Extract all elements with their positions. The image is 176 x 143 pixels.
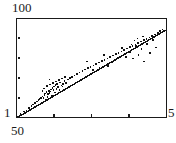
- data-point: [123, 49, 125, 51]
- data-point: [155, 47, 157, 49]
- data-point: [53, 86, 55, 88]
- data-point: [107, 65, 109, 67]
- data-point: [40, 97, 42, 99]
- x-axis-min-label: 50: [11, 124, 24, 137]
- data-point: [46, 85, 48, 87]
- data-point: [134, 40, 136, 42]
- data-point: [146, 38, 148, 40]
- data-point: [50, 91, 52, 93]
- data-point: [44, 93, 46, 95]
- regression-line-segment: [19, 31, 165, 117]
- data-point: [31, 105, 33, 107]
- data-point: [131, 44, 133, 46]
- data-point: [149, 37, 151, 39]
- data-point: [28, 107, 30, 109]
- data-point: [42, 90, 44, 92]
- data-point: [121, 47, 123, 49]
- data-point: [43, 88, 45, 90]
- data-point: [56, 88, 58, 90]
- data-point: [59, 89, 61, 91]
- data-point: [47, 93, 49, 95]
- data-point: [126, 48, 128, 50]
- x-axis-max-label: 5: [168, 106, 175, 119]
- data-point: [57, 86, 59, 88]
- data-point: [43, 97, 45, 99]
- data-point: [95, 63, 97, 65]
- data-point: [42, 96, 44, 98]
- data-point: [71, 76, 73, 78]
- data-point: [34, 102, 36, 104]
- data-point: [132, 58, 134, 60]
- data-point: [82, 70, 84, 72]
- data-point: [47, 96, 49, 98]
- data-point: [112, 55, 114, 57]
- data-point: [107, 58, 109, 60]
- data-point: [104, 59, 106, 61]
- data-point: [52, 87, 54, 89]
- data-point: [141, 48, 143, 50]
- data-point: [62, 86, 64, 88]
- data-point: [76, 73, 78, 75]
- data-point: [49, 79, 51, 81]
- data-point: [162, 29, 164, 31]
- x-axis-tick: [53, 114, 55, 117]
- data-point: [125, 56, 127, 58]
- data-point: [92, 69, 94, 71]
- data-point: [44, 94, 46, 96]
- data-point: [143, 39, 145, 41]
- data-point: [86, 61, 88, 63]
- data-point: [67, 79, 69, 81]
- data-point: [56, 83, 58, 85]
- data-point: [62, 83, 64, 85]
- data-point: [149, 52, 151, 54]
- y-axis-min-label: 1: [4, 106, 11, 119]
- data-point: [58, 79, 60, 81]
- plot-frame: [17, 19, 167, 118]
- y-axis-tick: [18, 97, 21, 99]
- data-point: [118, 52, 120, 54]
- data-point: [152, 39, 154, 41]
- data-point: [74, 75, 76, 77]
- data-point: [46, 91, 48, 93]
- data-point: [59, 82, 61, 84]
- data-point: [138, 54, 140, 56]
- data-point: [39, 98, 41, 100]
- data-point: [49, 92, 51, 94]
- data-point: [48, 90, 50, 92]
- data-point: [146, 43, 148, 45]
- data-point: [159, 30, 161, 32]
- y-axis-tick: [18, 77, 21, 79]
- scatter-plot-figure: 100 1 50 5: [0, 0, 176, 143]
- data-point: [84, 69, 86, 71]
- regression-line: [19, 31, 165, 117]
- data-point: [98, 62, 100, 64]
- data-point: [151, 35, 153, 37]
- data-point: [36, 101, 38, 103]
- data-point: [137, 42, 139, 44]
- data-point: [115, 53, 117, 55]
- x-axis-tick: [128, 114, 130, 117]
- y-axis-tick: [18, 57, 21, 59]
- y-axis-tick: [18, 18, 21, 20]
- data-point: [143, 61, 145, 63]
- plot-canvas: [0, 0, 176, 143]
- y-axis-max-label: 100: [12, 1, 32, 14]
- data-point: [26, 110, 28, 112]
- data-point: [90, 66, 92, 68]
- data-point: [109, 56, 111, 58]
- data-point: [65, 82, 67, 84]
- data-point: [55, 84, 57, 86]
- data-point: [32, 104, 34, 106]
- data-point: [53, 89, 55, 91]
- data-point: [49, 84, 51, 86]
- data-point: [69, 77, 71, 79]
- data-point: [61, 78, 63, 80]
- x-axis-tick: [91, 114, 93, 117]
- data-point: [154, 34, 156, 36]
- y-axis-tick: [18, 37, 21, 39]
- data-point: [93, 65, 95, 67]
- data-point: [101, 60, 103, 62]
- data-point: [121, 51, 123, 53]
- data-point: [129, 46, 131, 48]
- data-point: [140, 41, 142, 43]
